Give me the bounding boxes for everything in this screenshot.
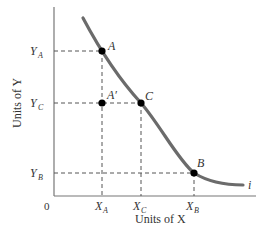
indifference-curve-diagram: A A′ C B i Y A Y C Y B 0 X A X C X B Uni… <box>0 0 272 238</box>
svg-text:Y: Y <box>30 96 38 110</box>
label-b: B <box>197 156 205 170</box>
y-tick-a: Y A <box>30 44 43 60</box>
y-axis-title: Units of Y <box>10 77 24 128</box>
point-c <box>137 99 144 106</box>
label-c: C <box>145 89 154 103</box>
label-curve-i: i <box>248 178 251 192</box>
dashed-guides <box>54 51 194 196</box>
x-axis-title: Units of X <box>135 212 186 226</box>
svg-text:Y: Y <box>30 166 38 180</box>
point-a <box>98 47 105 54</box>
x-tick-b: X B <box>185 199 199 215</box>
svg-text:A: A <box>37 51 43 60</box>
point-a-prime <box>98 99 105 106</box>
y-tick-c: Y C <box>30 96 44 112</box>
svg-text:A: A <box>102 206 108 215</box>
svg-text:B: B <box>194 206 199 215</box>
y-tick-b: Y B <box>30 166 43 182</box>
svg-text:Y: Y <box>30 44 38 58</box>
point-b <box>190 169 197 176</box>
svg-text:X: X <box>94 199 103 213</box>
label-a: A <box>107 39 116 53</box>
x-tick-a: X A <box>94 199 108 215</box>
origin-label: 0 <box>44 200 50 212</box>
svg-text:B: B <box>38 173 43 182</box>
svg-text:X: X <box>132 199 141 213</box>
svg-text:X: X <box>185 199 194 213</box>
label-a-prime: A′ <box>106 88 117 102</box>
svg-text:C: C <box>38 103 44 112</box>
